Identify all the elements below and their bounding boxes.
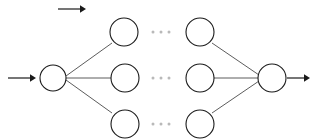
hidden-last-middle-node[interactable] <box>186 64 214 92</box>
hidden-last-top-node[interactable] <box>186 18 214 46</box>
output-arrow-head <box>304 74 310 82</box>
hidden-first-top-node[interactable] <box>110 18 138 46</box>
ellipsis-dot <box>152 77 155 80</box>
edge-hidden-last-bottom-to-output <box>212 81 259 113</box>
ellipsis-middle-row <box>152 77 171 80</box>
ellipsis-dot <box>168 77 171 80</box>
output-arrow <box>287 74 310 82</box>
ellipsis-top-row <box>152 31 171 34</box>
ellipsis-dot <box>160 77 163 80</box>
ellipsis-dot <box>152 123 155 126</box>
ellipsis-dot <box>152 31 155 34</box>
neural-network-diagram <box>0 0 317 139</box>
ellipsis-bottom-row <box>152 123 171 126</box>
hidden-last-bottom-node[interactable] <box>186 110 214 138</box>
annotation-arrow-head <box>80 5 86 13</box>
ellipsis-dot <box>168 123 171 126</box>
network-canvas <box>0 0 317 139</box>
output-node[interactable] <box>258 64 286 92</box>
ellipsis-dot <box>160 31 163 34</box>
edge-group-input <box>66 43 112 113</box>
input-arrow <box>8 74 36 82</box>
hidden-first-middle-node[interactable] <box>111 64 139 92</box>
edge-input-to-hidden-first-top <box>66 43 112 76</box>
edge-input-to-hidden-first-bottom <box>66 80 112 113</box>
edge-group-output <box>212 43 259 113</box>
edge-hidden-last-top-to-output <box>212 43 259 75</box>
annotation-arrow <box>58 5 86 13</box>
ellipsis-dot <box>160 123 163 126</box>
ellipsis-dot <box>168 31 171 34</box>
input-node[interactable] <box>40 65 66 91</box>
input-arrow-head <box>30 74 36 82</box>
hidden-first-bottom-node[interactable] <box>111 110 139 138</box>
